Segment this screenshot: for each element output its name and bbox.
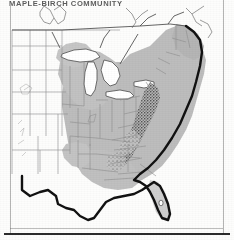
figure-title: MAPLE-BIRCH COMMUNITY [9,0,189,8]
page-rule-bottom-thin [10,228,223,229]
map-canvas [0,4,234,234]
florida-lake-dot [159,200,163,206]
page-rule-bottom-thick [4,233,230,235]
figure-page: MAPLE-BIRCH COMMUNITY [0,0,234,240]
us-vegetation-map [0,4,234,234]
page-rule-right [223,0,224,234]
page-rule-left [10,6,11,234]
